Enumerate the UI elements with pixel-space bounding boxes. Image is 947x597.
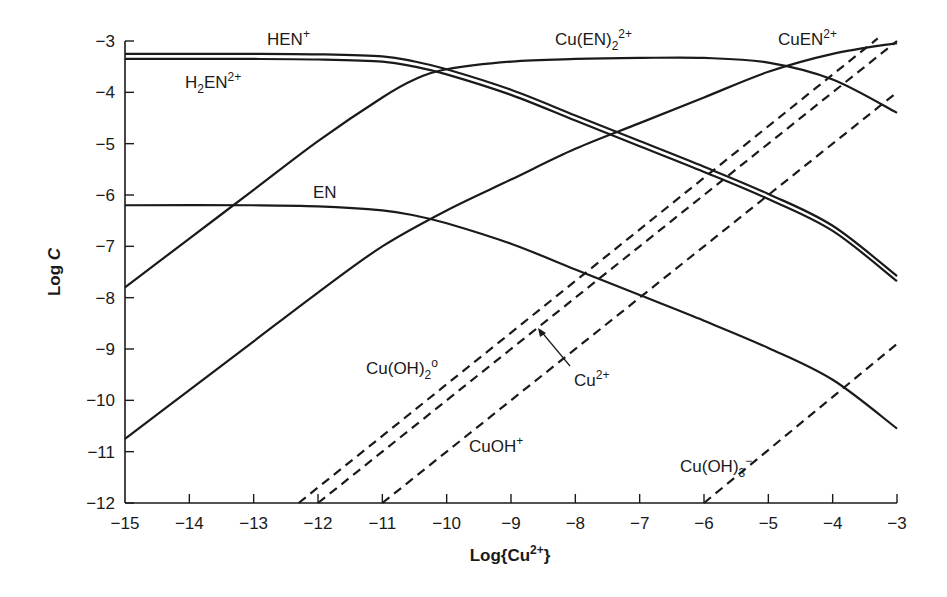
- x-tick-label: −4: [823, 514, 842, 533]
- y-tick-label: −9: [96, 340, 115, 359]
- label-cuoh: CuOH+: [469, 434, 523, 456]
- y-ticks: −3−4−5−6−7−8−9−10−11−12: [86, 32, 134, 513]
- x-tick-label: −8: [566, 514, 585, 533]
- y-tick-label: −7: [96, 237, 115, 256]
- y-tick-label: −4: [96, 83, 115, 102]
- series-cuoh: [382, 92, 897, 503]
- x-tick-label: −12: [304, 514, 333, 533]
- y-tick-label: −5: [96, 135, 115, 154]
- label-cuen2: Cu(EN)22+: [555, 27, 632, 53]
- label-cuoh2: Cu(OH)2o: [366, 356, 438, 382]
- y-axis-title: Log C: [45, 247, 64, 296]
- series-cu2: [318, 41, 897, 503]
- series-group: [125, 38, 897, 503]
- x-tick-label: −11: [369, 514, 397, 533]
- series-en: [125, 205, 897, 428]
- x-ticks: −15−14−13−12−11−10−9−8−7−6−5−4−3: [111, 494, 907, 533]
- x-tick-label: −9: [501, 514, 520, 533]
- series-cu-en-2-2: [125, 58, 897, 288]
- chart: −15−14−13−12−11−10−9−8−7−6−5−4−3 −3−4−5−…: [0, 0, 947, 597]
- x-tick-label: −10: [432, 514, 461, 533]
- series-cu-oh-2-0: [299, 38, 878, 503]
- x-tick-label: −15: [111, 514, 140, 533]
- y-tick-label: −12: [86, 494, 115, 513]
- x-tick-label: −13: [239, 514, 268, 533]
- series-cu-oh-3: [704, 344, 897, 503]
- label-hen: HEN+: [267, 27, 310, 49]
- label-h2en: H2EN2+: [185, 70, 241, 96]
- series-cuen2: [125, 43, 897, 439]
- series-h2en2: [125, 59, 897, 281]
- y-tick-label: −11: [87, 443, 115, 462]
- label-cuoh3: Cu(OH)3−: [680, 454, 752, 480]
- y-tick-label: −10: [86, 391, 115, 410]
- x-tick-label: −3: [887, 514, 906, 533]
- x-tick-label: −6: [694, 514, 713, 533]
- y-tick-label: −8: [96, 289, 115, 308]
- y-tick-label: −3: [96, 32, 115, 51]
- x-tick-label: −5: [759, 514, 778, 533]
- label-en: EN: [313, 183, 337, 202]
- x-tick-label: −14: [175, 514, 204, 533]
- axes: −15−14−13−12−11−10−9−8−7−6−5−4−3 −3−4−5−…: [86, 32, 907, 533]
- y-tick-label: −6: [96, 186, 115, 205]
- label-cuen: CuEN2+: [778, 27, 837, 49]
- x-axis-title: Log{Cu2+}: [470, 543, 551, 565]
- x-tick-label: −7: [630, 514, 649, 533]
- label-cu2: Cu2+: [574, 368, 609, 390]
- cu2-label-arrow: [540, 330, 570, 366]
